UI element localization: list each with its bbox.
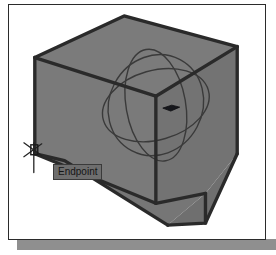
osnap-tooltip: Endpoint [53,164,102,180]
cad-viewport[interactable]: Endpoint [8,4,266,240]
page-right-margin [265,12,276,244]
viewport-canvas[interactable] [9,5,265,239]
page-drop-shadow [17,239,276,250]
screenshot-root: Endpoint [0,0,276,255]
